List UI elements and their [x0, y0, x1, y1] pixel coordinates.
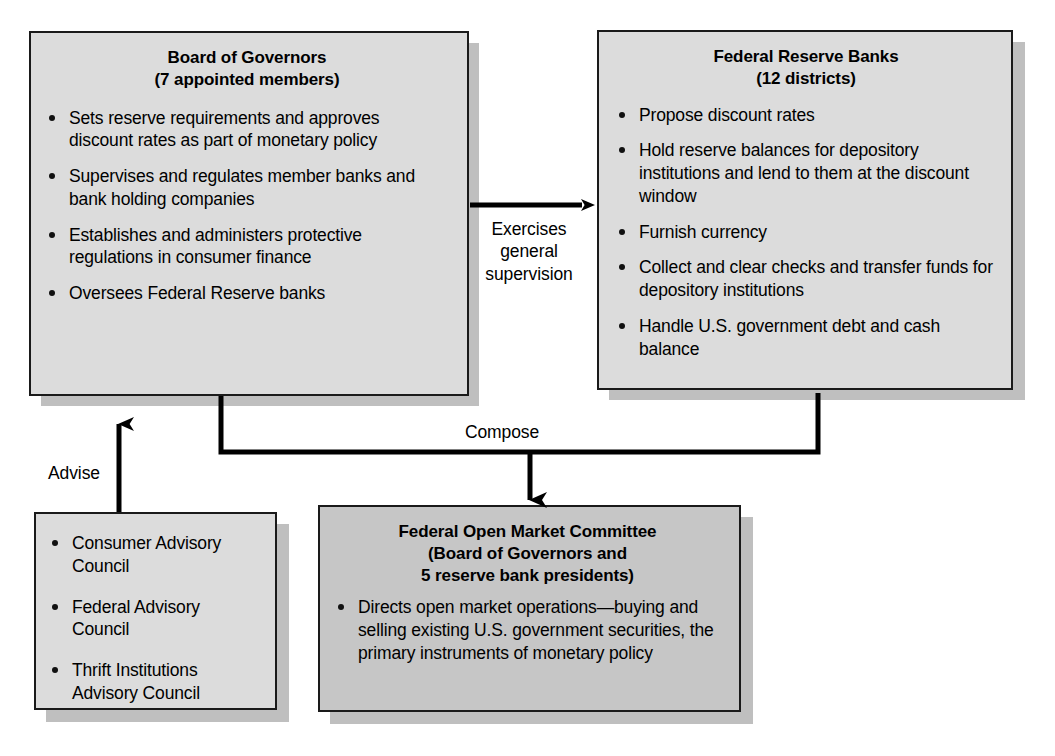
advisory-councils-bullet-list: Consumer Advisory Council Federal Adviso… — [50, 532, 261, 705]
list-item: Establishes and administers protective r… — [47, 224, 447, 270]
bullet-dot-icon — [49, 173, 55, 179]
supervision-label: Exercises general supervision — [466, 218, 592, 285]
list-item-text: Directs open market operations—buying an… — [358, 597, 714, 663]
list-item-text: Establishes and administers protective r… — [69, 225, 362, 268]
list-item: Supervises and regulates member banks an… — [47, 165, 447, 211]
list-item-text: Federal Advisory Council — [72, 597, 200, 640]
board-of-governors-title-line2: (7 appointed members) — [47, 69, 447, 91]
list-item: Handle U.S. government debt and cash bal… — [617, 315, 995, 361]
fed-structure-diagram: Federal Reserve Banks : "Exercises gener… — [0, 0, 1055, 756]
fomc-title: Federal Open Market Committee (Board of … — [336, 521, 719, 586]
bullet-dot-icon — [619, 323, 625, 329]
bullet-dot-icon — [619, 112, 625, 118]
box-advisory-councils: Consumer Advisory Council Federal Adviso… — [34, 512, 277, 710]
board-of-governors-bullet-list: Sets reserve requirements and approves d… — [47, 107, 447, 305]
fomc-bullet-list: Directs open market operations—buying an… — [336, 596, 719, 664]
list-item: Furnish currency — [617, 221, 995, 244]
list-item-text: Supervises and regulates member banks an… — [69, 166, 415, 209]
list-item: Federal Advisory Council — [50, 596, 261, 642]
list-item: Hold reserve balances for depository ins… — [617, 139, 995, 207]
fomc-title-line2: (Board of Governors and — [336, 543, 719, 565]
box-federal-reserve-banks: Federal Reserve Banks (12 districts) Pro… — [597, 30, 1013, 390]
list-item-text: Handle U.S. government debt and cash bal… — [639, 316, 940, 359]
board-of-governors-title-line1: Board of Governors — [47, 47, 447, 69]
compose-label: Compose — [432, 421, 572, 443]
compose-connector — [221, 393, 818, 500]
advise-label: Advise — [48, 462, 110, 484]
list-item-text: Sets reserve requirements and approves d… — [69, 108, 379, 151]
bullet-dot-icon — [619, 264, 625, 270]
box-fomc: Federal Open Market Committee (Board of … — [318, 505, 741, 712]
box-board-of-governors: Board of Governors (7 appointed members)… — [29, 31, 469, 396]
bullet-dot-icon — [49, 115, 55, 121]
bullet-dot-icon — [52, 540, 58, 546]
federal-reserve-banks-title: Federal Reserve Banks (12 districts) — [617, 46, 995, 90]
bullet-dot-icon — [52, 604, 58, 610]
fomc-title-line1: Federal Open Market Committee — [336, 521, 719, 543]
list-item: Directs open market operations—buying an… — [336, 596, 719, 664]
bullet-dot-icon — [49, 232, 55, 238]
fomc-title-line3: 5 reserve bank presidents) — [336, 565, 719, 587]
list-item: Collect and clear checks and transfer fu… — [617, 256, 995, 302]
list-item-text: Propose discount rates — [639, 105, 815, 125]
list-item-text: Collect and clear checks and transfer fu… — [639, 257, 993, 300]
list-item-text: Oversees Federal Reserve banks — [69, 283, 325, 303]
list-item-text: Consumer Advisory Council — [72, 533, 221, 576]
list-item-text: Hold reserve balances for depository ins… — [639, 140, 969, 206]
federal-reserve-banks-title-line2: (12 districts) — [617, 68, 995, 90]
bullet-dot-icon — [49, 290, 55, 296]
bullet-dot-icon — [619, 229, 625, 235]
bullet-dot-icon — [619, 147, 625, 153]
bullet-dot-icon — [52, 667, 58, 673]
list-item: Consumer Advisory Council — [50, 532, 261, 578]
federal-reserve-banks-bullet-list: Propose discount rates Hold reserve bala… — [617, 104, 995, 361]
list-item-text: Thrift Institutions Advisory Council — [72, 660, 200, 703]
list-item: Sets reserve requirements and approves d… — [47, 107, 447, 153]
list-item: Oversees Federal Reserve banks — [47, 282, 447, 305]
list-item: Thrift Institutions Advisory Council — [50, 659, 261, 705]
list-item-text: Furnish currency — [639, 222, 767, 242]
board-of-governors-title: Board of Governors (7 appointed members) — [47, 47, 447, 91]
bullet-dot-icon — [338, 604, 344, 610]
federal-reserve-banks-title-line1: Federal Reserve Banks — [617, 46, 995, 68]
list-item: Propose discount rates — [617, 104, 995, 127]
